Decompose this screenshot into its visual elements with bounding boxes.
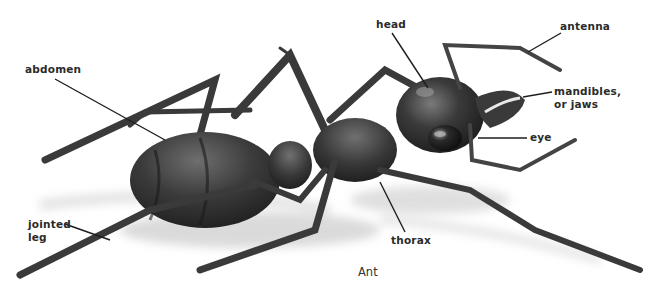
label-jointed-leg-line2: leg: [28, 231, 47, 243]
label-thorax: thorax: [391, 234, 431, 246]
label-head: head: [376, 18, 406, 30]
label-mandibles-line2: or jaws: [554, 98, 598, 110]
label-jointed-leg-line1: jointed: [28, 218, 71, 230]
label-mandibles-line1: mandibles,: [554, 85, 621, 97]
label-eye: eye: [530, 131, 552, 143]
ant-illustration: [0, 0, 648, 301]
label-abdomen: abdomen: [25, 63, 81, 75]
eye-shape: [428, 125, 462, 151]
label-antenna: antenna: [560, 20, 610, 32]
figure-caption: Ant: [358, 265, 378, 279]
ant-diagram: abdomen head antenna mandibles, or jaws …: [0, 0, 648, 301]
